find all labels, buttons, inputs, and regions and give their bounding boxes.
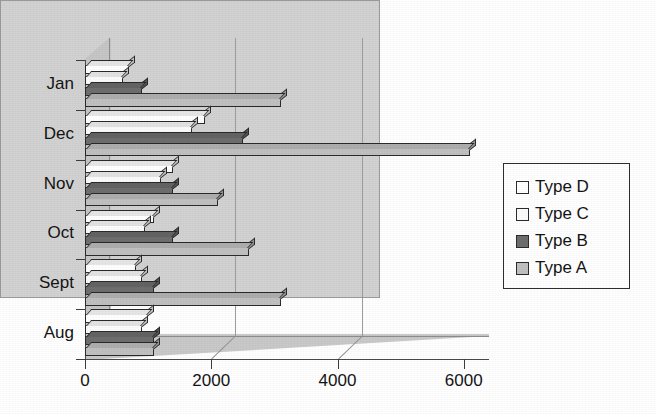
bar-top-face — [86, 292, 285, 298]
legend-label: Type A — [535, 258, 587, 278]
bar-top-face — [86, 342, 159, 348]
category-tick — [76, 60, 85, 61]
category-tick — [76, 309, 85, 310]
legend-label: Type D — [535, 177, 589, 197]
bar-type-a-sept — [85, 297, 281, 306]
bar-top-face — [86, 93, 285, 99]
bar-top-face — [86, 110, 209, 116]
bar-top-face — [86, 309, 153, 315]
value-tick-2000 — [211, 359, 212, 369]
legend-swatch-icon — [516, 262, 529, 275]
bar-top-face — [86, 132, 247, 138]
value-tick-0 — [85, 359, 86, 369]
bar-type-a-aug — [85, 347, 154, 356]
bar-top-face — [86, 82, 146, 88]
category-label-nov: Nov — [4, 174, 74, 194]
bar-top-face — [86, 242, 254, 248]
value-tick-label: 6000 — [429, 371, 499, 391]
chart-figure: Games consoles sales JanDecNovOctSeptAug… — [0, 0, 656, 414]
legend-label: Type C — [535, 204, 589, 224]
legend-item-type-a[interactable]: Type A — [516, 255, 587, 281]
value-tick-4000 — [338, 359, 339, 369]
bar-type-a-dec — [85, 148, 470, 157]
legend-item-type-c[interactable]: Type C — [516, 201, 589, 227]
category-label-sept: Sept — [4, 273, 74, 293]
bar-type-a-nov — [85, 198, 218, 207]
legend-swatch-icon — [516, 181, 529, 194]
category-tick — [76, 210, 85, 211]
bar-top-face — [86, 143, 474, 149]
bar-top-face — [86, 210, 159, 216]
bar-top-face — [86, 171, 165, 177]
category-label-oct: Oct — [4, 223, 74, 243]
legend-item-type-d[interactable]: Type D — [516, 174, 589, 200]
bar-type-a-jan — [85, 98, 281, 107]
value-tick-label: 2000 — [176, 371, 246, 391]
category-label-dec: Dec — [4, 124, 74, 144]
back-floor-edge — [109, 336, 489, 337]
bar-top-face — [86, 231, 178, 237]
bar-top-face — [86, 220, 149, 226]
bar-top-face — [86, 71, 127, 77]
bar-top-face — [86, 60, 134, 66]
bar-top-face — [86, 121, 197, 127]
bar-top-face — [86, 320, 146, 326]
bar-top-face — [86, 259, 140, 265]
category-label-aug: Aug — [4, 323, 74, 343]
bar-top-face — [86, 281, 159, 287]
chart-legend: Type DType CType BType A — [503, 163, 630, 289]
value-tick-label: 4000 — [303, 371, 373, 391]
value-tick-6000 — [464, 359, 465, 369]
bar-top-face — [86, 270, 146, 276]
bar-top-face — [86, 193, 222, 199]
legend-item-type-b[interactable]: Type B — [516, 228, 588, 254]
bar-top-face — [86, 160, 178, 166]
category-tick — [76, 160, 85, 161]
bar-type-a-oct — [85, 247, 249, 256]
category-tick — [76, 259, 85, 260]
legend-label: Type B — [535, 231, 588, 251]
category-tick — [76, 110, 85, 111]
gridline-4000 — [362, 38, 363, 336]
value-axis-line — [85, 359, 489, 360]
category-tick — [76, 359, 85, 360]
legend-swatch-icon — [516, 208, 529, 221]
bar-top-face — [86, 182, 178, 188]
legend-swatch-icon — [516, 235, 529, 248]
bar-top-face — [86, 331, 159, 337]
value-tick-label: 0 — [50, 371, 120, 391]
category-label-jan: Jan — [4, 74, 74, 94]
